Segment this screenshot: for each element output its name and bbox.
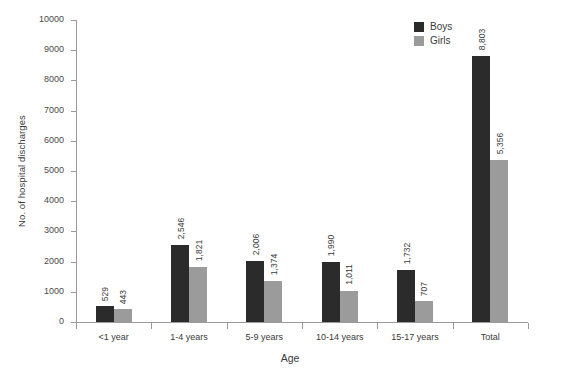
bar-girls[interactable]: 5,356 <box>490 20 508 322</box>
bar-group: 529443 <box>96 20 132 322</box>
y-axis-tick-label: 6000 <box>24 135 64 145</box>
bar-rect <box>397 270 415 322</box>
bar-rect <box>96 306 114 322</box>
bar-rect <box>415 301 433 322</box>
bar-group: 8,8035,356 <box>472 20 508 322</box>
bar-rect <box>264 281 282 322</box>
y-axis-tick-label: 0 <box>24 316 64 326</box>
x-axis-separator-tick <box>453 323 454 329</box>
bar-girls[interactable]: 1,821 <box>189 20 207 322</box>
y-axis-tick <box>71 171 76 172</box>
bar-value-label: 1,374 <box>260 259 287 269</box>
y-axis-tick-label: 2000 <box>24 256 64 266</box>
bar-girls[interactable]: 1,374 <box>264 20 282 322</box>
x-axis-separator-tick <box>227 323 228 329</box>
bar-value-label: 529 <box>96 289 114 299</box>
bar-pair: 2,5461,821 <box>171 20 207 322</box>
bar-pair: 529443 <box>96 20 132 322</box>
x-axis-title: Age <box>0 352 580 364</box>
bar-group: 2,0061,374 <box>246 20 282 322</box>
bar-value-label: 443 <box>114 292 132 302</box>
bar-group: 1,732707 <box>397 20 433 322</box>
y-axis-tick-label: 8000 <box>24 74 64 84</box>
x-axis-category-label: 10-14 years <box>302 332 377 342</box>
bar-group: 1,9901,011 <box>322 20 358 322</box>
bar-pair: 2,0061,374 <box>246 20 282 322</box>
y-axis-tick-label: 7000 <box>24 105 64 115</box>
bar-value-label: 1,821 <box>185 246 212 256</box>
x-axis-separator-tick <box>377 323 378 329</box>
bar-girls[interactable]: 707 <box>415 20 433 322</box>
y-axis-line <box>76 20 77 322</box>
x-axis-category-label: 15-17 years <box>377 332 452 342</box>
y-axis-tick-label: 1000 <box>24 286 64 296</box>
y-axis-tick-label: 9000 <box>24 44 64 54</box>
chart-legend: BoysGirls <box>414 22 452 50</box>
y-axis-tick <box>71 111 76 112</box>
bar-rect <box>490 160 508 322</box>
legend-item-girls[interactable]: Girls <box>414 36 452 46</box>
y-axis-tick-label: 3000 <box>24 225 64 235</box>
bar-rect <box>189 267 207 322</box>
bar-group: 2,5461,821 <box>171 20 207 322</box>
x-axis-category-label: Total <box>453 332 528 342</box>
legend-label: Boys <box>430 22 452 32</box>
x-axis-category-label: 5-9 years <box>227 332 302 342</box>
bar-rect <box>171 245 189 322</box>
y-axis-tick <box>71 141 76 142</box>
bar-pair: 1,9901,011 <box>322 20 358 322</box>
x-axis-separator-tick <box>302 323 303 329</box>
bar-rect <box>114 309 132 322</box>
bar-rect <box>246 261 264 322</box>
grouped-bar-chart: No. of hospital discharges 0100020003000… <box>0 0 580 377</box>
y-axis-tick <box>71 201 76 202</box>
legend-item-boys[interactable]: Boys <box>414 22 452 32</box>
bar-girls[interactable]: 443 <box>114 20 132 322</box>
bar-pair: 1,732707 <box>397 20 433 322</box>
y-axis-tick-label: 5000 <box>24 165 64 175</box>
y-axis-tick <box>71 262 76 263</box>
y-axis-tick <box>71 50 76 51</box>
y-axis-tick <box>71 20 76 21</box>
bar-boys[interactable]: 2,006 <box>246 20 264 322</box>
x-axis-category-label: <1 year <box>76 332 151 342</box>
y-axis-tick-label: 10000 <box>24 14 64 24</box>
y-axis-tick <box>71 292 76 293</box>
y-axis-tick-label: 4000 <box>24 195 64 205</box>
bar-boys[interactable]: 8,803 <box>472 20 490 322</box>
bar-value-label: 5,356 <box>486 139 513 149</box>
bar-value-label: 707 <box>415 284 433 294</box>
bar-girls[interactable]: 1,011 <box>340 20 358 322</box>
y-axis-tick <box>71 80 76 81</box>
legend-swatch-icon <box>414 36 424 46</box>
bar-rect <box>340 291 358 322</box>
x-axis-category-label: 1-4 years <box>151 332 226 342</box>
legend-label: Girls <box>430 36 451 46</box>
plot-area: 0100020003000400050006000700080009000100… <box>76 20 528 322</box>
legend-swatch-icon <box>414 22 424 32</box>
bar-rect <box>472 56 490 322</box>
x-axis-separator-tick <box>528 323 529 329</box>
x-axis-separator-tick <box>76 323 77 329</box>
bar-boys[interactable]: 1,732 <box>397 20 415 322</box>
bar-boys[interactable]: 529 <box>96 20 114 322</box>
bar-boys[interactable]: 2,546 <box>171 20 189 322</box>
x-axis-separator-tick <box>151 323 152 329</box>
bar-pair: 8,8035,356 <box>472 20 508 322</box>
y-axis-tick <box>71 231 76 232</box>
bar-value-label: 1,011 <box>335 270 362 280</box>
